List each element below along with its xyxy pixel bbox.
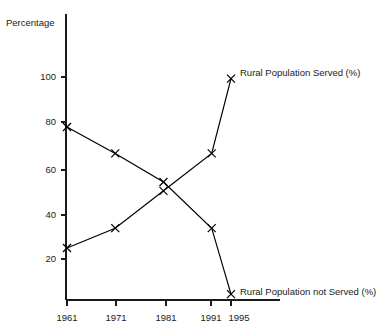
y-tick-label-20: 20 bbox=[30, 254, 56, 264]
marker-not-served-1991 bbox=[208, 224, 216, 232]
series-label-not-served: Rural Population not Served (%) bbox=[240, 287, 376, 297]
series-not-served-markers bbox=[63, 123, 235, 298]
series-label-served: Rural Population Served (%) bbox=[240, 68, 360, 78]
line-chart: Percentage 100 80 60 40 20 1961 1971 198… bbox=[0, 0, 390, 333]
marker-not-served-1971 bbox=[111, 149, 119, 157]
marker-not-served-1961 bbox=[63, 123, 71, 131]
marker-not-served-1995 bbox=[227, 290, 235, 298]
marker-served-1961 bbox=[63, 244, 71, 252]
x-tick-label-1981: 1981 bbox=[149, 313, 183, 323]
x-tick-label-1995: 1995 bbox=[222, 313, 256, 323]
marker-served-1991 bbox=[208, 149, 216, 157]
y-tick-label-100: 100 bbox=[30, 72, 56, 82]
x-tick-label-1961: 1961 bbox=[50, 313, 84, 323]
series-not-served-polyline bbox=[67, 127, 231, 294]
marker-served-1971 bbox=[111, 224, 119, 232]
marker-served-1981 bbox=[159, 187, 167, 195]
chart-canvas bbox=[0, 0, 390, 333]
y-tick-label-80: 80 bbox=[30, 117, 56, 127]
y-tick-label-40: 40 bbox=[30, 210, 56, 220]
x-tick-label-1971: 1971 bbox=[99, 313, 133, 323]
marker-served-1995 bbox=[227, 75, 235, 83]
marker-not-served-1981 bbox=[159, 178, 167, 186]
y-tick-label-60: 60 bbox=[30, 165, 56, 175]
y-axis-title: Percentage bbox=[6, 18, 55, 28]
